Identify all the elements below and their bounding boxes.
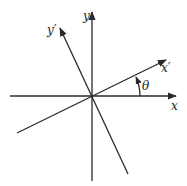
label-y-prime: y′ (46, 23, 57, 37)
theta-arc-icon (136, 77, 140, 96)
label-x: x (171, 99, 178, 113)
label-x-prime: x′ (161, 61, 171, 75)
label-y: y (82, 9, 90, 23)
label-theta: θ (142, 79, 150, 93)
rotated-axes-diagram: y y′ x′ x θ (0, 0, 187, 186)
y-prime-axis (60, 28, 128, 174)
